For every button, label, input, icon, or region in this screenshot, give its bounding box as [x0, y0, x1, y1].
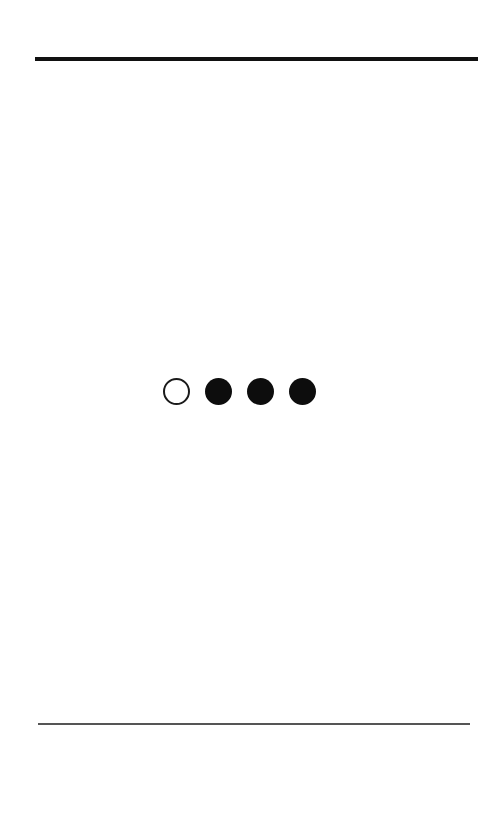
step-dot-3[interactable] — [247, 378, 274, 405]
footer-blank-content-area — [0, 725, 478, 824]
page-root — [0, 0, 478, 824]
step-indicator[interactable] — [0, 377, 478, 406]
lower-blank-content-area — [0, 406, 478, 723]
step-dot-2[interactable] — [205, 378, 232, 405]
top-divider — [35, 57, 478, 61]
bottom-divider — [38, 723, 470, 725]
upper-blank-content-area — [0, 61, 478, 377]
step-dot-1[interactable] — [163, 378, 190, 405]
step-dot-4[interactable] — [289, 378, 316, 405]
